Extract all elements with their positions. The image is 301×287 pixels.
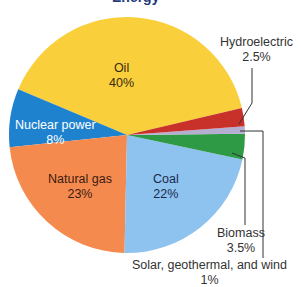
label-solar: Solar, geothermal, and wind 1% [132,258,287,287]
label-solar-pct: 1% [132,273,287,287]
label-gas: Natural gas 23% [48,172,112,202]
label-biomass-name: Biomass [217,226,265,241]
label-biomass-pct: 3.5% [217,241,265,256]
label-gas-name: Natural gas [48,172,112,187]
label-coal-name: Coal [153,172,179,187]
label-hydro: Hydroelectric 2.5% [220,35,293,65]
label-solar-name: Solar, geothermal, and wind [132,258,287,273]
label-biomass: Biomass 3.5% [217,226,265,256]
label-oil-name: Oil [109,61,134,76]
label-coal-pct: 22% [153,187,179,202]
label-nuclear: Nuclear power 8% [15,118,96,148]
label-gas-pct: 23% [48,187,112,202]
label-oil: Oil 40% [109,61,134,91]
label-nuclear-name: Nuclear power [15,118,96,133]
label-coal: Coal 22% [153,172,179,202]
label-hydro-name: Hydroelectric [220,35,293,50]
label-nuclear-pct: 8% [15,133,96,148]
label-oil-pct: 40% [109,76,134,91]
label-hydro-pct: 2.5% [220,50,293,65]
